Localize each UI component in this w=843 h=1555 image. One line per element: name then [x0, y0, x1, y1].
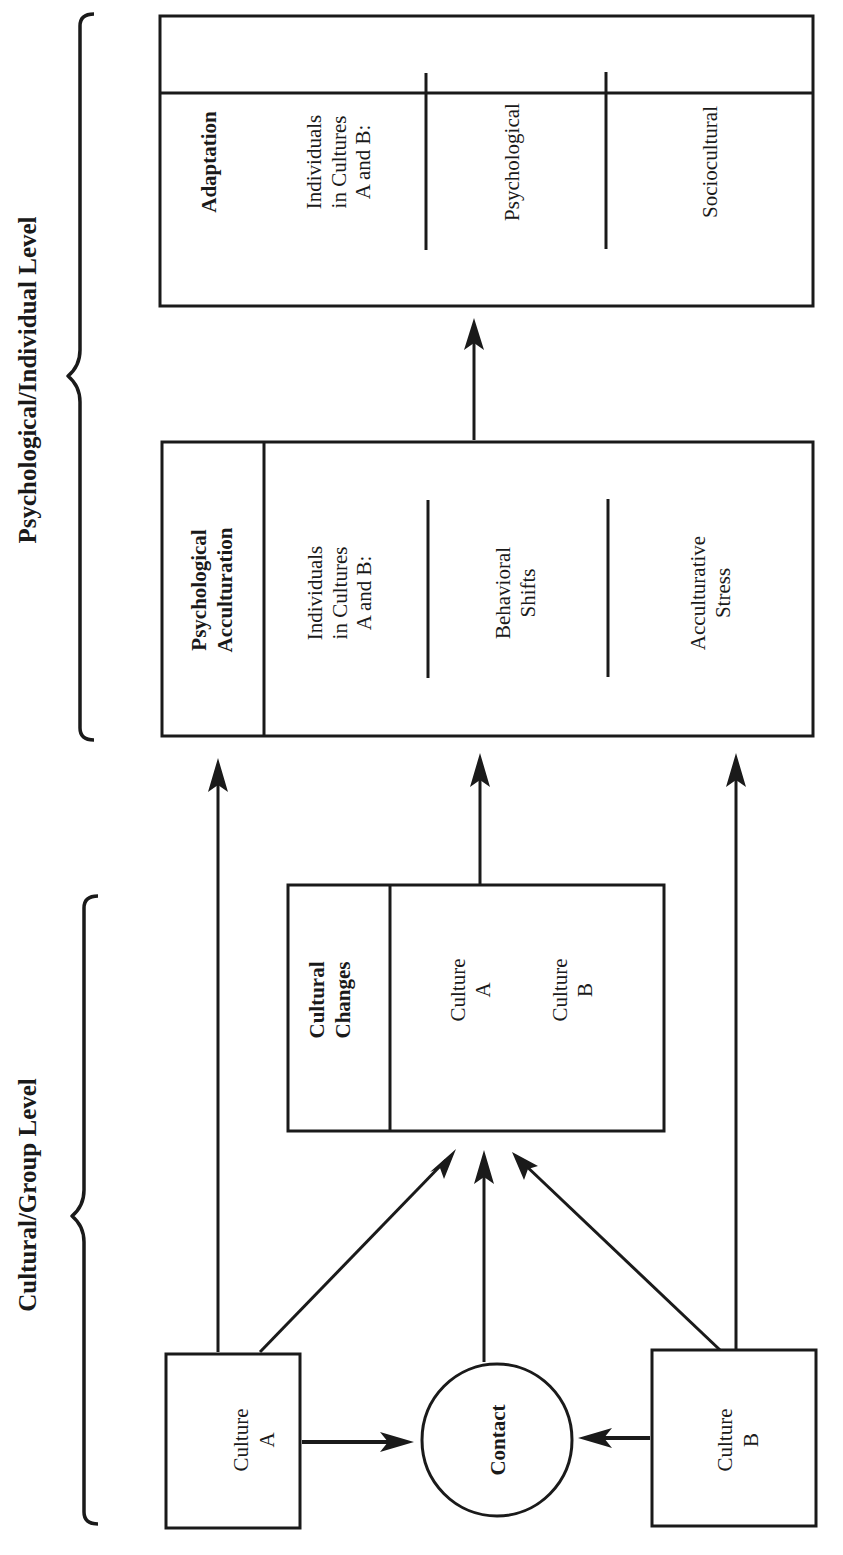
arrow-culture-a-to-acculturation — [208, 758, 228, 1352]
arrow-acculturation-to-adaptation — [464, 318, 484, 440]
cultural-level-label: Cultural/Group Level — [14, 1078, 41, 1312]
acculturation-item-stress-line1: Acculturative — [686, 536, 710, 650]
acculturation-intro-line1: Individuals — [303, 546, 327, 641]
culture-b-line1: Culture — [713, 1409, 737, 1472]
contact-node: Contact — [422, 1364, 572, 1516]
adaptation-intro-line2: in Cultures — [327, 116, 351, 209]
cultural-changes-item-a-line2: A — [471, 982, 495, 998]
acculturation-intro-line2: in Cultures — [328, 547, 352, 640]
acculturation-item-behavioral-line1: Behavioral — [491, 547, 515, 639]
adaptation-intro: Individuals in Cultures A and B: — [302, 115, 375, 210]
cultural-changes-box: Cultural Changes Culture A Culture B — [288, 885, 664, 1131]
arrow-culture-b-to-acculturation — [726, 753, 746, 1350]
acculturation-item-stress-line2: Stress — [711, 568, 735, 618]
adaptation-header: Adaptation — [197, 111, 221, 213]
arrow-cultural-changes-to-acculturation — [470, 753, 490, 884]
diagram-canvas: Psychological/Individual Level Cultural/… — [0, 0, 843, 1555]
adaptation-item-sociocultural: Sociocultural — [698, 106, 722, 218]
cultural-level-group: Cultural/Group Level — [14, 896, 98, 1524]
psychological-level-label: Psychological/Individual Level — [14, 216, 41, 543]
cultural-changes-item-a-line1: Culture — [446, 959, 470, 1022]
culture-b-line2: B — [739, 1433, 763, 1447]
adaptation-item-psychological: Psychological — [500, 103, 524, 221]
cultural-level-brace — [72, 896, 98, 1524]
culture-b-box: Culture B — [652, 1350, 816, 1526]
arrow-culture-b-to-contact — [578, 1428, 650, 1448]
psychological-level-group: Psychological/Individual Level — [14, 14, 94, 740]
adaptation-intro-line3: A and B: — [351, 125, 375, 200]
psychological-level-brace — [68, 14, 94, 740]
contact-label: Contact — [486, 1404, 510, 1475]
cultural-changes-header-line1: Cultural — [305, 961, 329, 1038]
culture-a-line2: A — [255, 1432, 279, 1448]
cultural-changes-item-b-line1: Culture — [548, 959, 572, 1022]
culture-a-box: Culture A — [166, 1354, 300, 1528]
acculturation-header-line1: Psychological — [187, 529, 211, 650]
acculturation-framework-diagram: Psychological/Individual Level Cultural/… — [0, 0, 843, 1555]
acculturation-item-behavioral-line2: Shifts — [516, 568, 540, 617]
arrow-culture-a-to-contact — [302, 1432, 414, 1452]
cultural-changes-header-line2: Changes — [331, 961, 355, 1038]
adaptation-intro-line1: Individuals — [302, 115, 326, 210]
acculturation-intro-line3: A and B: — [352, 556, 376, 631]
arrow-culture-b-to-cultural-changes — [512, 1152, 720, 1350]
acculturation-header-line2: Acculturation — [213, 527, 237, 652]
arrow-culture-a-to-cultural-changes — [260, 1149, 456, 1352]
arrow-contact-to-cultural-changes — [474, 1150, 494, 1362]
psychological-acculturation-box: Psychological Acculturation Individuals … — [162, 442, 813, 736]
cultural-changes-item-b-line2: B — [573, 983, 597, 997]
culture-a-line1: Culture — [229, 1409, 253, 1472]
adaptation-box: Adaptation Individuals in Cultures A and… — [160, 16, 813, 306]
